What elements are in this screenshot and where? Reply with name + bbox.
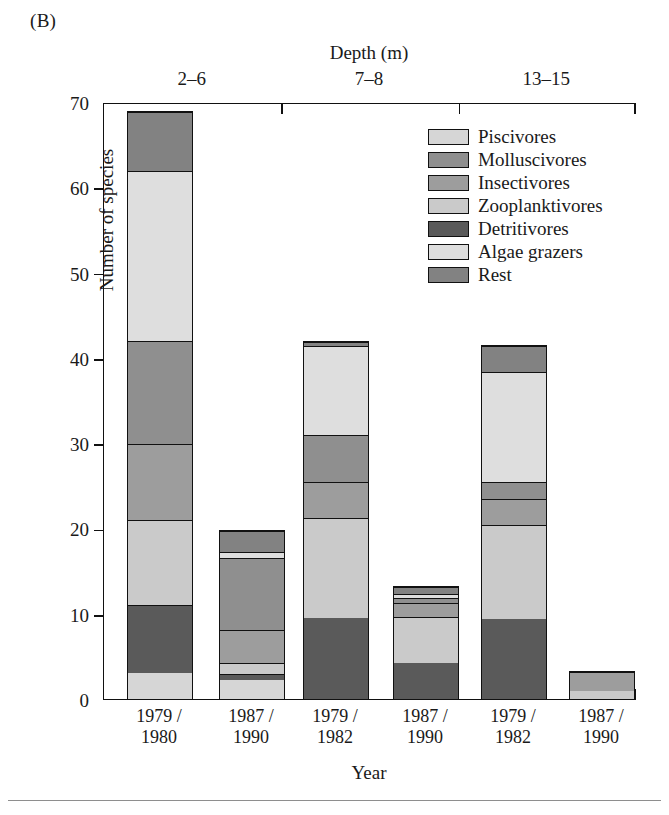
bar-segment-detritivores — [220, 674, 284, 681]
bar-segment-insectivores — [220, 630, 284, 663]
bar-1[interactable] — [127, 111, 193, 699]
bar-segment-detritivores — [128, 605, 192, 673]
bar-segment-rest — [128, 112, 192, 172]
y-tick-60 — [94, 188, 104, 190]
x-axis-label-2: 1987 /1990 — [228, 706, 274, 748]
bar-segment-zooplanktivores — [570, 691, 634, 699]
y-axis-label-20: 20 — [19, 519, 89, 541]
legend-swatch-icon — [428, 221, 469, 237]
bar-segment-rest — [394, 587, 458, 595]
bar-5[interactable] — [481, 345, 547, 699]
bar-segment-algae-grazers — [128, 171, 192, 341]
bar-segment-rest — [482, 346, 546, 372]
x-axis-label-1: 1979 /1980 — [136, 706, 182, 748]
legend-label: Insectivores — [478, 172, 570, 194]
x-axis-label-6: 1987 /1990 — [578, 706, 624, 748]
bar-4[interactable] — [393, 586, 459, 699]
legend-item-insectivores[interactable]: Insectivores — [428, 172, 603, 193]
y-tick-10 — [94, 615, 104, 617]
panel-label: (B) — [30, 10, 56, 32]
legend-item-detritivores[interactable]: Detritivores — [428, 218, 603, 239]
depth-group-label-3: 13–15 — [458, 68, 635, 94]
y-axis-label-10: 10 — [19, 605, 89, 627]
y-tick-40 — [94, 359, 104, 361]
x-axis-label-3: 1979 /1982 — [312, 706, 358, 748]
legend-label: Piscivores — [478, 126, 556, 148]
bar-segment-molluscivores — [128, 341, 192, 443]
bar-segment-rest — [220, 531, 284, 552]
bar-segment-zooplanktivores — [394, 617, 458, 663]
y-tick-50 — [94, 274, 104, 276]
legend: PiscivoresMolluscivoresInsectivoresZoopl… — [428, 126, 603, 285]
bar-segment-insectivores — [394, 603, 458, 617]
bar-segment-insectivores — [128, 444, 192, 521]
bar-segment-insectivores — [570, 672, 634, 691]
legend-swatch-icon — [428, 175, 469, 191]
bar-2[interactable] — [219, 530, 285, 699]
x-axis-label-4: 1987 /1990 — [402, 706, 448, 748]
legend-item-molluscivores[interactable]: Molluscivores — [428, 149, 603, 170]
legend-label: Molluscivores — [478, 149, 587, 171]
legend-swatch-icon — [428, 129, 469, 145]
legend-item-zooplanktivores[interactable]: Zooplanktivores — [428, 195, 603, 216]
y-axis-label-30: 30 — [19, 434, 89, 456]
y-axis-label-70: 70 — [19, 93, 89, 115]
legend-label: Algae grazers — [478, 241, 583, 263]
bar-segment-insectivores — [304, 482, 368, 518]
legend-item-piscivores[interactable]: Piscivores — [428, 126, 603, 147]
bar-3[interactable] — [303, 341, 369, 699]
legend-swatch-icon — [428, 152, 469, 168]
legend-swatch-icon — [428, 198, 469, 214]
bar-segment-algae-grazers — [482, 372, 546, 483]
y-axis-label-40: 40 — [19, 349, 89, 371]
y-axis-label-50: 50 — [19, 264, 89, 286]
y-tick-20 — [94, 530, 104, 532]
bar-segment-molluscivores — [482, 482, 546, 499]
depth-group-label-2: 7–8 — [280, 68, 457, 94]
bar-segment-piscivores — [220, 680, 284, 699]
depth-group-label-1: 2–6 — [103, 68, 280, 94]
y-axis-label-0: 0 — [19, 690, 89, 712]
legend-label: Rest — [478, 264, 512, 286]
bar-segment-zooplanktivores — [482, 525, 546, 619]
legend-item-rest[interactable]: Rest — [428, 264, 603, 285]
legend-label: Detritivores — [478, 218, 569, 240]
legend-swatch-icon — [428, 244, 469, 260]
bar-segment-molluscivores — [304, 435, 368, 482]
bar-6[interactable] — [569, 671, 635, 699]
bar-segment-zooplanktivores — [304, 518, 368, 618]
bar-segment-molluscivores — [220, 558, 284, 629]
bottom-rule — [8, 800, 661, 801]
bar-segment-detritivores — [394, 663, 458, 699]
bar-segment-zooplanktivores — [128, 520, 192, 605]
legend-label: Zooplanktivores — [478, 195, 603, 217]
bar-segment-piscivores — [128, 673, 192, 699]
y-axis-label-60: 60 — [19, 178, 89, 200]
bar-segment-zooplanktivores — [220, 663, 284, 674]
x-axis-title: Year — [103, 762, 635, 784]
bar-segment-detritivores — [482, 619, 546, 699]
depth-group-labels: 2–6 7–8 13–15 — [103, 68, 635, 94]
bar-segment-algae-grazers — [304, 346, 368, 435]
x-axis-labels: 1979 /19801987 /19901979 /19821987 /1990… — [103, 706, 635, 764]
bar-segment-detritivores — [304, 618, 368, 699]
y-tick-30 — [94, 444, 104, 446]
x-axis-label-5: 1979 /1982 — [490, 706, 536, 748]
legend-item-algae-grazers[interactable]: Algae grazers — [428, 241, 603, 262]
bar-segment-insectivores — [482, 499, 546, 525]
legend-swatch-icon — [428, 267, 469, 283]
depth-axis-title: Depth (m) — [103, 42, 635, 64]
